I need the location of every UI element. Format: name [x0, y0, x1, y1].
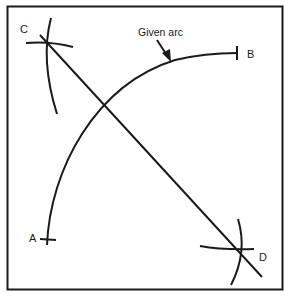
- label-d: D: [259, 251, 267, 263]
- bisector-line-cd: [40, 35, 262, 277]
- label-c: C: [20, 23, 28, 35]
- given-arc-arrow: [157, 40, 171, 62]
- tick-a: [40, 239, 56, 240]
- construction-diagram: C Given arc B A D: [0, 0, 290, 297]
- label-given-arc: Given arc: [138, 26, 183, 38]
- label-a: A: [29, 232, 37, 244]
- given-arc: [47, 53, 237, 245]
- label-b: B: [247, 48, 254, 60]
- swing-arc-d-horizontal: [200, 246, 254, 249]
- swing-arc-c-vertical: [47, 18, 57, 114]
